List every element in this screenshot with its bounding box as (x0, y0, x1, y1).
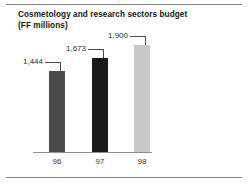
leader-line-horizontal-97 (88, 49, 103, 50)
plot-area: 961,444971,673981,900 (0, 0, 248, 185)
x-tick-label-97: 97 (85, 157, 115, 166)
leader-line-horizontal-98 (130, 36, 145, 37)
leader-line-vertical-96 (60, 62, 61, 71)
x-tick-label-98: 98 (127, 157, 157, 166)
value-label-96: 1,444 (1, 57, 43, 66)
x-tick-label-96: 96 (42, 157, 72, 166)
value-label-97: 1,673 (44, 44, 86, 53)
leader-line-vertical-98 (145, 36, 146, 45)
leader-line-horizontal-96 (45, 62, 60, 63)
bar-97 (92, 58, 108, 152)
x-axis-line (33, 152, 152, 153)
chart-figure: Cosmetology and research sectors budget … (0, 0, 248, 185)
bar-96 (49, 71, 65, 152)
leader-line-vertical-97 (103, 49, 104, 58)
bar-98 (134, 45, 150, 152)
value-label-98: 1,900 (86, 31, 128, 40)
